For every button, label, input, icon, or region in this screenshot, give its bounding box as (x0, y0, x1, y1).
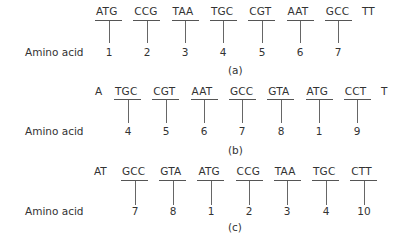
codon: ATG (307, 85, 329, 97)
amino-acid-number: 2 (137, 46, 157, 58)
codon: TAA (173, 5, 194, 17)
amino-acid-row-label: Amino acid (25, 205, 84, 217)
amino-acid-number: 6 (290, 46, 310, 58)
codon: CGT (153, 85, 175, 97)
amino-acid-number: 4 (316, 205, 336, 217)
amino-acid-number: 7 (125, 205, 145, 217)
codon: CCG (237, 165, 260, 177)
amino-acid-number: 10 (354, 205, 374, 217)
codon-connector-line (249, 181, 250, 205)
codon: GTA (160, 165, 181, 177)
codon: GCC (230, 85, 253, 97)
amino-acid-number: 4 (118, 125, 138, 137)
codon-connector-line (128, 100, 129, 123)
codon-connector-line (364, 181, 365, 205)
codon: GCC (122, 165, 145, 177)
codon-connector-line (287, 181, 288, 205)
trailing-nucleotides: TT (362, 5, 375, 17)
panel-caption: (b) (228, 144, 243, 156)
codon: CCT (345, 85, 367, 97)
codon-connector-line (357, 100, 358, 123)
codon-connector-line (185, 21, 186, 43)
amino-acid-number: 3 (277, 205, 297, 217)
codon: ATG (198, 165, 220, 177)
amino-acid-number: 1 (99, 46, 119, 58)
amino-acid-number: 9 (347, 125, 367, 137)
codon-connector-line (223, 21, 224, 43)
amino-acid-number: 8 (271, 125, 291, 137)
codon: TGC (115, 85, 137, 97)
amino-acid-number: 8 (163, 205, 183, 217)
leading-nucleotides: A (95, 85, 102, 97)
codon-connector-line (262, 21, 263, 43)
codon-connector-line (204, 100, 205, 123)
amino-acid-number: 1 (201, 205, 221, 217)
codon-connector-line (300, 21, 301, 43)
trailing-nucleotides: T (381, 85, 387, 97)
amino-acid-number: 4 (213, 46, 233, 58)
codon: TGC (211, 5, 233, 17)
amino-acid-row-label: Amino acid (25, 46, 84, 58)
codon: GCC (326, 5, 349, 17)
codon-connector-line (281, 100, 282, 123)
codon-connector-line (135, 181, 136, 205)
codon-connector-line (338, 21, 339, 43)
amino-acid-number: 1 (309, 125, 329, 137)
amino-acid-number: 5 (156, 125, 176, 137)
codon-connector-line (147, 21, 148, 43)
codon-connector-line (211, 181, 212, 205)
leading-nucleotides: AT (94, 165, 107, 177)
codon-connector-line (109, 21, 110, 43)
codon: ATG (96, 5, 118, 17)
codon: CGT (249, 5, 271, 17)
amino-acid-number: 2 (239, 205, 259, 217)
amino-acid-row-label: Amino acid (25, 125, 84, 137)
codon-connector-line (173, 181, 174, 205)
panel-caption: (a) (228, 64, 243, 76)
amino-acid-number: 3 (175, 46, 195, 58)
amino-acid-number: 6 (194, 125, 214, 137)
amino-acid-number: 7 (328, 46, 348, 58)
codon-connector-line (319, 100, 320, 123)
codon-connector-line (242, 100, 243, 123)
panel-caption: (c) (228, 221, 242, 233)
codon: AAT (192, 85, 213, 97)
amino-acid-number: 7 (232, 125, 252, 137)
codon: TAA (275, 165, 296, 177)
amino-acid-number: 5 (252, 46, 272, 58)
codon-connector-line (166, 100, 167, 123)
codon-connector-line (326, 181, 327, 205)
codon: GTA (268, 85, 289, 97)
codon: CCG (134, 5, 157, 17)
codon: CTT (351, 165, 372, 177)
codon: AAT (288, 5, 309, 17)
codon: TGC (313, 165, 335, 177)
